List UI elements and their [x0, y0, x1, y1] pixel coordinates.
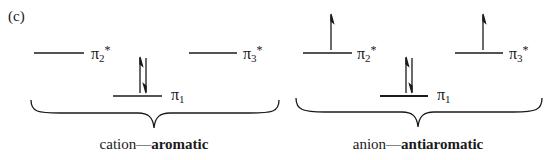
- cation-pi1-spin-down-arrow-icon: [144, 58, 147, 93]
- cation-pi1-label: π1: [171, 87, 185, 105]
- anion-pi3-star-spin-up-arrow-icon: [483, 14, 486, 50]
- cation-pi1-spin-up-arrow-icon: [140, 57, 143, 93]
- cation-brace: [31, 100, 279, 128]
- anion-pi2-star-spin-up-arrow-icon: [331, 14, 334, 50]
- anion-pi3-star-label: π3*: [509, 44, 529, 64]
- cation-pi3-star-label: π3*: [243, 44, 263, 64]
- anion-pi1-spin-up-arrow-icon: [406, 57, 409, 93]
- cation-pi2-star-label: π2*: [91, 44, 111, 64]
- anion-pi2-star-label: π2*: [357, 44, 377, 64]
- anion-pi1-label: π1: [437, 87, 451, 105]
- anion-caption: anion—antiaromatic: [353, 137, 484, 152]
- anion-pi1-spin-down-arrow-icon: [410, 58, 413, 93]
- anion-brace: [296, 98, 542, 127]
- cation-caption: cation—aromatic: [100, 137, 209, 152]
